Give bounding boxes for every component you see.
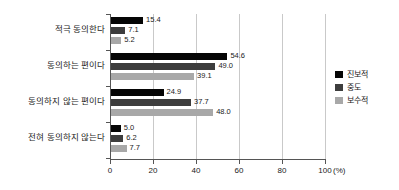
bar-jinbojeok [110,53,227,60]
bar-jinbojeok [110,89,164,96]
category-label-2: 동의하지 않는 편이다 [28,96,105,107]
legend-item-bosujeok: 보수적 [335,95,368,106]
bar-value-label: 15.4 [143,15,161,25]
bar-row: 15.4 [110,17,325,24]
legend-swatch-icon [335,97,343,104]
bar-row: 7.7 [110,145,325,152]
bar-row: 7.1 [110,27,325,34]
bar-value-label: 49.0 [215,61,233,71]
legend-label: 보수적 [347,95,368,106]
bar-value-label: 37.7 [191,97,209,107]
bar-row: 49.0 [110,63,325,70]
bar-group: 54.6 49.0 39.1 [110,53,325,83]
bar-row: 5.2 [110,37,325,44]
bar-row: 5.0 [110,125,325,132]
bar-chart: 15.4 7.1 5.2 54.6 49.0 39.1 [0,0,399,190]
x-axis-tick-label: 60 [235,166,244,176]
plot-area: 15.4 7.1 5.2 54.6 49.0 39.1 [110,14,325,159]
x-axis-tick-80 [282,159,283,164]
x-axis-tick-label: 40 [192,166,201,176]
x-axis-tick-60 [239,159,240,164]
bar-row: 54.6 [110,53,325,60]
bar-group: 24.9 37.7 48.0 [110,89,325,119]
bar-value-label: 5.2 [121,35,134,45]
x-axis-tick-label: 0 [108,166,112,176]
bar-jungdo [110,99,191,106]
bar-group: 15.4 7.1 5.2 [110,17,325,47]
legend-item-jungdo: 중도 [335,82,368,93]
bar-bosujeok [110,37,121,44]
bar-value-label: 54.6 [227,51,245,61]
bar-value-label: 6.2 [123,133,136,143]
x-axis-line [110,159,326,160]
category-label-3: 전혀 동의하지 않는다 [28,132,105,143]
bar-row: 24.9 [110,89,325,96]
bar-jungdo [110,63,215,70]
bar-jungdo [110,135,123,142]
bar-row: 48.0 [110,109,325,116]
x-axis-tick-40 [196,159,197,164]
bar-jinbojeok [110,17,143,24]
bar-value-label: 7.1 [125,25,138,35]
bar-group: 5.0 6.2 7.7 [110,125,325,155]
bar-jungdo [110,27,125,34]
x-axis-tick-label: 20 [149,166,158,176]
bar-bosujeok [110,145,127,152]
bar-value-label: 48.0 [213,107,231,117]
bar-row: 6.2 [110,135,325,142]
category-label-0: 적극 동의한다 [55,24,105,35]
bar-jinbojeok [110,125,121,132]
legend-label: 중도 [347,82,361,93]
bar-row: 39.1 [110,73,325,80]
legend-label: 진보적 [347,69,368,80]
legend-item-jinbojeok: 진보적 [335,69,368,80]
bar-value-label: 24.9 [164,87,182,97]
x-axis-unit-label: (%) [333,166,345,176]
legend-swatch-icon [335,84,343,91]
bar-bosujeok [110,73,194,80]
x-axis-tick-label: 100 [318,166,331,176]
bar-value-label: 39.1 [194,71,212,81]
bar-value-label: 7.7 [127,143,140,153]
bar-bosujeok [110,109,213,116]
y-axis-line [110,14,111,159]
x-axis-tick-label: 80 [278,166,287,176]
category-label-1: 동의하는 편이다 [47,60,105,71]
x-axis-tick-100 [325,159,326,164]
x-axis-tick-0 [110,159,111,164]
x-axis-tick-20 [153,159,154,164]
gridline-100 [325,14,326,159]
bar-row: 37.7 [110,99,325,106]
legend: 진보적 중도 보수적 [335,69,368,108]
bar-value-label: 5.0 [121,123,134,133]
legend-swatch-icon [335,71,343,78]
